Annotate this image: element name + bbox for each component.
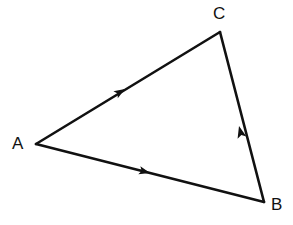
vertex-label-c: C	[213, 5, 225, 22]
edge-b-to-c	[220, 32, 264, 202]
triangle-diagram: A B C	[0, 0, 293, 225]
triangle-figure	[0, 0, 293, 225]
edge-a-to-c	[36, 32, 220, 144]
vertex-label-a: A	[12, 135, 23, 152]
vertex-label-b: B	[271, 196, 282, 213]
